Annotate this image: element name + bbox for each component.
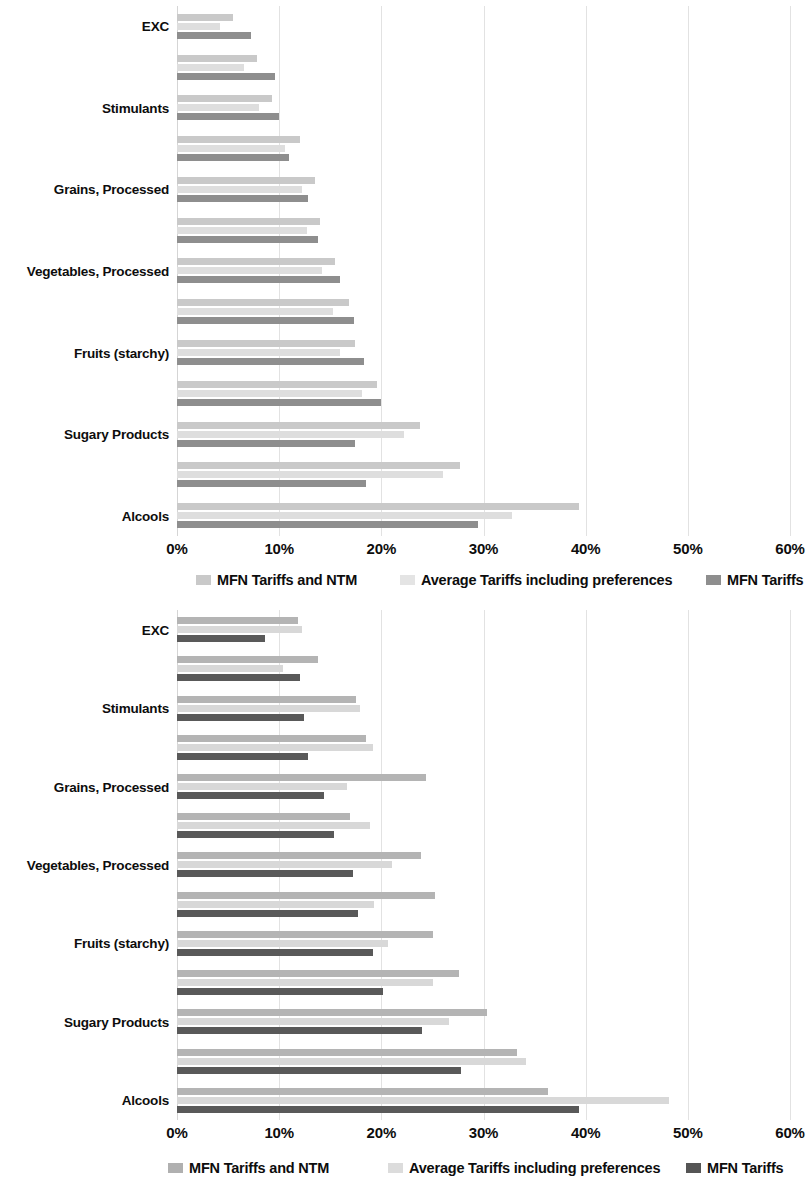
bar bbox=[177, 399, 381, 406]
bar bbox=[177, 940, 388, 947]
x-axis-tick: 10% bbox=[264, 540, 293, 557]
x-axis-tick: 50% bbox=[673, 540, 702, 557]
bar bbox=[177, 236, 318, 243]
bar bbox=[177, 665, 283, 672]
bar-group bbox=[177, 454, 790, 495]
x-axis-tick: 50% bbox=[673, 1124, 702, 1141]
bar bbox=[177, 480, 366, 487]
x-axis-tick: 20% bbox=[367, 1124, 396, 1141]
bar bbox=[177, 95, 272, 102]
y-axis-label: Alcools bbox=[122, 1094, 169, 1107]
bar bbox=[177, 1067, 461, 1074]
bar-group bbox=[177, 169, 790, 210]
x-axis-tick: 10% bbox=[264, 1124, 293, 1141]
legend-top: MFN Tariffs and NTMAverage Tariffs inclu… bbox=[0, 568, 806, 592]
bar bbox=[177, 901, 374, 908]
legend-item[interactable]: MFN Tariffs bbox=[686, 1160, 783, 1176]
bar bbox=[177, 910, 358, 917]
legend-item[interactable]: MFN Tariffs and NTM bbox=[196, 572, 357, 588]
bar-group bbox=[177, 885, 790, 924]
bar bbox=[177, 892, 435, 899]
bar-group bbox=[177, 1002, 790, 1041]
bar bbox=[177, 753, 308, 760]
bar bbox=[177, 358, 364, 365]
gridline bbox=[790, 6, 791, 536]
bar-group bbox=[177, 88, 790, 129]
bar bbox=[177, 988, 383, 995]
bar bbox=[177, 813, 350, 820]
bar bbox=[177, 696, 356, 703]
bar bbox=[177, 831, 334, 838]
bar bbox=[177, 227, 307, 234]
legend-swatch-icon bbox=[400, 575, 415, 585]
x-axis-tick: 30% bbox=[469, 1124, 498, 1141]
bar bbox=[177, 656, 318, 663]
bar-group bbox=[177, 332, 790, 373]
bar bbox=[177, 512, 512, 519]
y-axis-label: Sugary Products bbox=[64, 1015, 169, 1028]
bar bbox=[177, 32, 251, 39]
bar bbox=[177, 1097, 669, 1104]
legend-swatch-icon bbox=[196, 575, 211, 585]
bar bbox=[177, 104, 259, 111]
bar bbox=[177, 64, 244, 71]
bar bbox=[177, 55, 257, 62]
bar bbox=[177, 462, 460, 469]
bar-group bbox=[177, 6, 790, 47]
bar bbox=[177, 744, 373, 751]
legend-label: MFN Tariffs bbox=[727, 572, 803, 588]
x-axis-tick: 40% bbox=[571, 1124, 600, 1141]
bar bbox=[177, 136, 300, 143]
gridline bbox=[790, 610, 791, 1120]
x-axis-tick: 60% bbox=[775, 1124, 804, 1141]
bar-group bbox=[177, 806, 790, 845]
bar bbox=[177, 949, 373, 956]
legend-item[interactable]: MFN Tariffs and NTM bbox=[168, 1160, 329, 1176]
chart-page: EXCStimulantsGrains, ProcessedVegetables… bbox=[0, 0, 806, 1193]
bar bbox=[177, 471, 443, 478]
x-axis-top: 0%10%20%30%40%50%60% bbox=[0, 540, 806, 566]
bar-group bbox=[177, 291, 790, 332]
x-axis-tick: 0% bbox=[166, 540, 187, 557]
bar bbox=[177, 1009, 487, 1016]
legend-swatch-icon bbox=[686, 1163, 701, 1173]
bar bbox=[177, 714, 304, 721]
bar bbox=[177, 1106, 579, 1113]
bar bbox=[177, 774, 426, 781]
bar bbox=[177, 1058, 526, 1065]
bar bbox=[177, 276, 340, 283]
y-axis-label: EXC bbox=[142, 20, 169, 33]
bar bbox=[177, 1018, 449, 1025]
bar-group bbox=[177, 610, 790, 649]
bar bbox=[177, 195, 308, 202]
bar-group bbox=[177, 128, 790, 169]
legend-swatch-icon bbox=[706, 575, 721, 585]
bar-group bbox=[177, 767, 790, 806]
bar bbox=[177, 503, 579, 510]
bar bbox=[177, 177, 315, 184]
legend-item[interactable]: Average Tariffs including preferences bbox=[388, 1160, 660, 1176]
bar bbox=[177, 1088, 548, 1095]
bar-chart-top: EXCStimulantsGrains, ProcessedVegetables… bbox=[0, 0, 806, 600]
bar bbox=[177, 861, 392, 868]
bar-group bbox=[177, 1081, 790, 1120]
bar bbox=[177, 1049, 517, 1056]
legend-item[interactable]: Average Tariffs including preferences bbox=[400, 572, 672, 588]
y-axis-label: Grains, Processed bbox=[54, 183, 169, 196]
bar bbox=[177, 852, 421, 859]
y-axis-label: Stimulants bbox=[102, 702, 169, 715]
y-axis-label: Vegetables, Processed bbox=[27, 859, 169, 872]
bar-chart-bottom: EXCStimulantsGrains, ProcessedVegetables… bbox=[0, 600, 806, 1193]
y-axis-label: Sugary Products bbox=[64, 428, 169, 441]
bar bbox=[177, 870, 353, 877]
bar bbox=[177, 792, 324, 799]
y-axis-label: Stimulants bbox=[102, 101, 169, 114]
bar bbox=[177, 390, 362, 397]
bar-group bbox=[177, 924, 790, 963]
bar bbox=[177, 113, 279, 120]
bar-group bbox=[177, 649, 790, 688]
y-axis-label: Fruits (starchy) bbox=[74, 346, 169, 359]
bar bbox=[177, 186, 302, 193]
legend-item[interactable]: MFN Tariffs bbox=[706, 572, 803, 588]
y-axis-label: EXC bbox=[142, 623, 169, 636]
